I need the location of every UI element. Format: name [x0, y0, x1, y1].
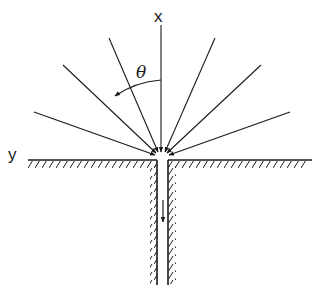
ray-right-1: [165, 38, 215, 152]
flow-diagram: [0, 0, 318, 297]
ray-left-3: [34, 112, 155, 155]
slot-hatch-right: [169, 166, 176, 284]
x-axis-label: x: [154, 8, 163, 25]
slot-hatch-left: [150, 166, 157, 284]
diagram-canvas: x y θ: [0, 0, 318, 297]
theta-arc: [115, 80, 161, 96]
surface-hatch-right: [168, 161, 308, 168]
surface-hatch-left: [28, 161, 157, 168]
ray-right-2: [167, 65, 261, 153]
y-axis-label: y: [8, 146, 17, 163]
angle-theta-label: θ: [136, 64, 146, 81]
